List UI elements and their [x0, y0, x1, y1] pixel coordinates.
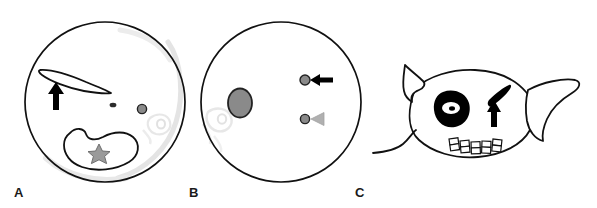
figure-container: A B C: [0, 0, 597, 208]
segment-2: [460, 140, 470, 153]
panel-b-circle-outline: [201, 22, 361, 182]
panel-b-gray-ellipse-mass: [228, 89, 252, 118]
figure-canvas: [0, 0, 597, 208]
panel-label-a: A: [14, 186, 24, 199]
panel-b-gray-dot-lower: [300, 114, 309, 123]
panel-a-small-dark-dot: [110, 103, 117, 108]
panel-a-gray-circle-marker: [137, 104, 146, 113]
panel-b-group: [201, 22, 361, 182]
panel-c-tail-fin-outline: [526, 79, 579, 141]
panel-c-lower-contour-line: [373, 130, 416, 153]
segment-4: [482, 141, 491, 153]
panel-label-c: C: [355, 186, 365, 199]
panel-b-gray-dot-upper: [300, 75, 310, 85]
panel-c-eye-pupil-dot: [449, 106, 455, 110]
segment-5: [492, 139, 502, 152]
panel-c-group: [373, 65, 579, 157]
segment-1: [449, 138, 460, 151]
segment-3: [471, 142, 480, 154]
panel-a-group: [25, 22, 185, 182]
panel-label-b: B: [189, 186, 199, 199]
